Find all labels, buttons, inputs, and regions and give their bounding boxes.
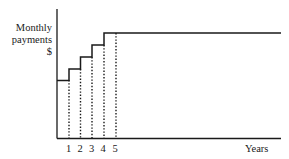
- x-tick-1: 1: [66, 143, 71, 154]
- payment-step-line: [57, 33, 281, 81]
- step-payment-chart: Monthly payments $ 1 2 3 4 5 Years: [0, 0, 289, 159]
- x-tick-4: 4: [101, 143, 107, 154]
- plot-area: 1 2 3 4 5 Years: [0, 0, 289, 159]
- x-tick-5: 5: [113, 143, 118, 154]
- x-axis-label: Years: [245, 143, 268, 154]
- x-tick-2: 2: [78, 143, 83, 154]
- x-tick-3: 3: [89, 143, 94, 154]
